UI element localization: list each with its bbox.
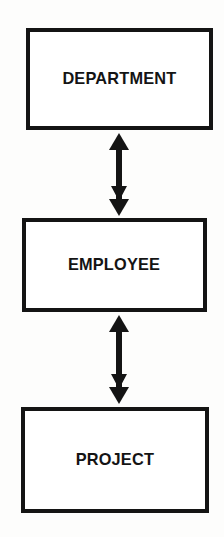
connector-employee-project[interactable]	[107, 315, 131, 404]
double-headed-arrow-icon	[107, 315, 131, 404]
connector-department-employee[interactable]	[107, 133, 131, 216]
double-headed-arrow-icon	[107, 133, 131, 216]
entity-label-project: PROJECT	[76, 450, 154, 470]
entity-box-department[interactable]: DEPARTMENT	[26, 28, 213, 130]
entity-box-employee[interactable]: EMPLOYEE	[22, 218, 207, 312]
entity-label-department: DEPARTMENT	[62, 69, 176, 89]
entity-box-project[interactable]: PROJECT	[21, 407, 209, 513]
entity-label-employee: EMPLOYEE	[68, 255, 160, 275]
diagram-canvas: DEPARTMENT EMPLOYEE PROJECT	[0, 0, 224, 537]
